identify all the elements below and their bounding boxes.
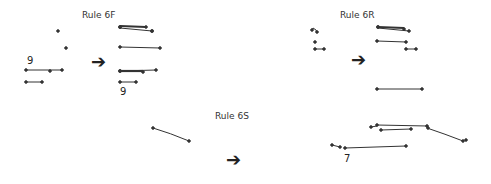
rule-6r-before-segments	[311, 28, 326, 50]
rule-diagram-canvas	[0, 0, 491, 184]
rule-6s-before-segments	[152, 127, 191, 143]
rule-6f-after-segments	[119, 26, 162, 84]
rule-6s-after-segments	[331, 124, 468, 150]
rule-6r-after-segments	[376, 26, 424, 91]
rule-6f-before-segments	[25, 30, 68, 84]
